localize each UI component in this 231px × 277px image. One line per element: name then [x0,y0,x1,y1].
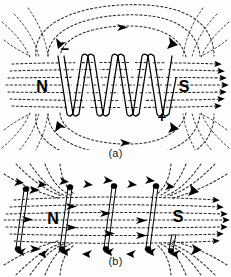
panel-b-north-pole-label: N [47,210,59,227]
caption-a: (a) [0,147,231,159]
panel-a-solenoid-helix: N S − + [0,0,231,150]
caption-b: (b) [0,255,231,267]
panel-b-arrow-left-lower [30,245,41,253]
panel-a-positive-terminal-label: + [158,108,167,125]
panel-a-arrow-top-center [117,24,128,31]
panel-b-current-loop-4 [145,183,159,251]
panel-a-south-pole-label: S [179,78,190,95]
panel-a-drawing: N S − + [0,0,231,150]
panel-b-current-loop-3 [103,183,117,251]
panel-a-negative-terminal-label: − [61,40,70,57]
panel-a-arrow-bottom-center [120,139,131,147]
panel-a-arrow-bottom-left [55,121,66,132]
panel-a-north-pole-label: N [36,78,48,95]
figure-root: N S − + (a) [0,0,231,277]
panel-b-interior-field-lines [4,197,226,243]
panel-b-bore-arrowheads [66,203,147,239]
panel-b-arrow-right-lower [191,244,202,255]
panel-a-arrow-top-right [167,37,178,49]
panel-b-south-pole-label: S [173,208,184,225]
panel-b-arrow-right-upper [188,184,199,196]
panel-b-current-loop-2 [59,184,73,251]
